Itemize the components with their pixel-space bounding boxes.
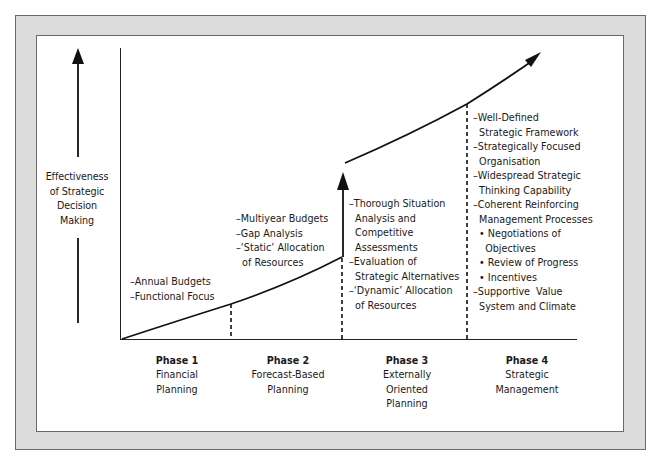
- list-item: Strategic Framework: [473, 126, 593, 141]
- list-item: –Functional Focus: [130, 290, 215, 305]
- phase-title: Phase 3: [355, 354, 459, 368]
- list-item: • Review of Progress: [473, 256, 593, 271]
- list-item: Strategic Alternatives: [349, 270, 459, 285]
- phase-1-label: Phase 1 Financial Planning: [126, 354, 228, 397]
- phase-2-label: Phase 2 Forecast-Based Planning: [236, 354, 340, 397]
- list-item: –Multiyear Budgets: [236, 212, 328, 227]
- list-item: Objectives: [473, 242, 593, 257]
- list-item: –Strategically Focused: [473, 140, 593, 155]
- list-item: –Annual Budgets: [130, 275, 215, 290]
- list-item: • Negotiations of: [473, 227, 593, 242]
- phase-4-label: Phase 4 Strategic Management: [474, 354, 580, 397]
- list-item: Analysis and: [349, 212, 459, 227]
- list-item: • Incentives: [473, 271, 593, 286]
- list-item: –‘Dynamic’ Allocation: [349, 284, 459, 299]
- phase-3-label: Phase 3 Externally Oriented Planning: [355, 354, 459, 411]
- phase-name: Financial Planning: [126, 368, 228, 397]
- phase-name: Forecast-Based Planning: [236, 368, 340, 397]
- list-item: of Resources: [349, 299, 459, 314]
- list-item: Competitive: [349, 226, 459, 241]
- list-item: Assessments: [349, 241, 459, 256]
- phase-title: Phase 1: [126, 354, 228, 368]
- list-item: Thinking Capability: [473, 184, 593, 199]
- list-item: of Resources: [236, 256, 328, 271]
- phase-title: Phase 2: [236, 354, 340, 368]
- list-item: Organisation: [473, 155, 593, 170]
- list-item: –Evaluation of: [349, 255, 459, 270]
- effectiveness-up-arrow-icon: [72, 48, 84, 157]
- jump-arrow-icon: [337, 172, 349, 257]
- list-item: –Thorough Situation: [349, 197, 459, 212]
- list-item: –Well-Defined: [473, 111, 593, 126]
- y-axis-label: Effectiveness of Strategic Decision Maki…: [44, 170, 110, 228]
- list-item: –Supportive Value: [473, 285, 593, 300]
- list-item: System and Climate: [473, 300, 593, 315]
- phase-3-characteristics: –Thorough Situation Analysis and Competi…: [349, 197, 459, 313]
- phase-1-characteristics: –Annual Budgets –Functional Focus: [130, 275, 215, 304]
- phase-name: Externally Oriented Planning: [355, 368, 459, 411]
- phase-2-characteristics: –Multiyear Budgets –Gap Analysis –‘Stati…: [236, 212, 328, 270]
- phase-title: Phase 4: [474, 354, 580, 368]
- list-item: –‘Static’ Allocation: [236, 241, 328, 256]
- phase-4-characteristics: –Well-Defined Strategic Framework –Strat…: [473, 111, 593, 314]
- list-item: –Widespread Strategic: [473, 169, 593, 184]
- list-item: Management Processes: [473, 213, 593, 228]
- phase-name: Strategic Management: [474, 368, 580, 397]
- list-item: –Gap Analysis: [236, 227, 328, 242]
- list-item: –Coherent Reinforcing: [473, 198, 593, 213]
